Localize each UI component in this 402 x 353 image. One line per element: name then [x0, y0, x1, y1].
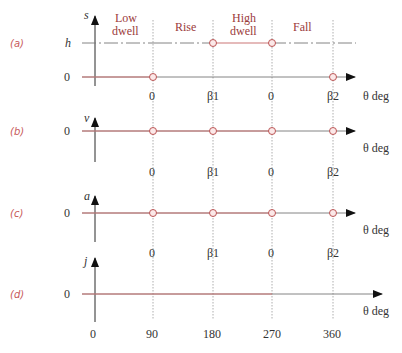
tick-b-0: 0 [149, 165, 155, 179]
deg-tick-360: 360 [323, 327, 341, 341]
y-axis-label-a: a [84, 189, 90, 203]
tick-a-beta2: β2 [327, 89, 339, 103]
tick-a-0: 0 [149, 89, 155, 103]
zero-label-c: 0 [64, 206, 70, 220]
tick-b-0b: 0 [268, 165, 274, 179]
deg-tick-270: 270 [263, 327, 281, 341]
tick-b-beta2: β2 [327, 165, 339, 179]
panel-c: (c) a 0 θ deg 0 β1 0 β2 [10, 189, 389, 260]
panel-label-d: (d) [10, 289, 24, 300]
segment-high-dwell: dwell [230, 24, 257, 38]
h-level-label: h [65, 36, 71, 50]
tick-c-beta1: β1 [207, 246, 219, 260]
y-axis-label-j: j [82, 254, 88, 268]
segment-high: High [232, 11, 256, 25]
panel-d: (d) j 0 θ deg 0 90 180 270 360 [10, 254, 389, 341]
x-axis-label-a: θ deg [363, 89, 389, 103]
x-axis-label-d: θ deg [363, 304, 389, 318]
tick-c-0b: 0 [268, 246, 274, 260]
y-axis-label-v: v [84, 111, 90, 125]
zero-label-b: 0 [64, 124, 70, 138]
x-axis-label-c: θ deg [363, 223, 389, 237]
deg-tick-90: 90 [146, 327, 158, 341]
y-axis-label-s: s [84, 8, 89, 22]
segment-rise: Rise [175, 20, 196, 34]
tick-c-0: 0 [149, 246, 155, 260]
panel-a: (a) s h 0 Low dwell Rise High dwell Fall… [10, 8, 389, 103]
segment-low: Low [115, 11, 137, 25]
tick-a-0b: 0 [268, 89, 274, 103]
tick-c-beta2: β2 [327, 246, 339, 260]
panel-label-b: (b) [10, 126, 24, 137]
deg-tick-0: 0 [90, 327, 96, 341]
panel-label-a: (a) [10, 38, 24, 49]
deg-tick-180: 180 [203, 327, 221, 341]
tick-a-beta1: β1 [207, 89, 219, 103]
tick-b-beta1: β1 [207, 165, 219, 179]
panel-label-c: (c) [10, 208, 23, 219]
zero-label-d: 0 [64, 287, 70, 301]
cam-svt-diagram: (a) s h 0 Low dwell Rise High dwell Fall… [0, 0, 402, 353]
panel-b: (b) v 0 θ deg 0 β1 0 β2 [10, 111, 389, 179]
segment-fall: Fall [293, 20, 312, 34]
guide-lines [153, 20, 333, 320]
segment-low-dwell: dwell [112, 24, 139, 38]
zero-label-a: 0 [64, 70, 70, 84]
x-axis-label-b: θ deg [363, 141, 389, 155]
